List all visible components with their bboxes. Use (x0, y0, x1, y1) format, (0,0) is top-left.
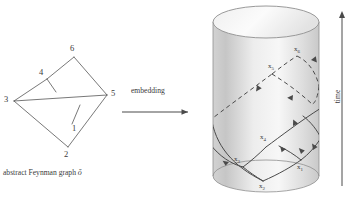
edge-4-6 (47, 57, 74, 79)
time-axis-label: time (333, 83, 342, 111)
graph-caption-symbol: ǒ (78, 168, 82, 177)
point-label-x1: x1 (297, 164, 303, 172)
abstract-feynman-graph-panel: 6 4 5 3 1 2 (0, 0, 130, 175)
edge-3-5 (14, 95, 107, 101)
vertex-label-3: 3 (4, 95, 8, 104)
graph-caption: abstract Feynman graph ǒ (3, 168, 82, 177)
graph-caption-text: abstract Feynman graph (3, 168, 78, 177)
edge-4-internal (47, 79, 56, 92)
vertex-label-2: 2 (64, 150, 68, 159)
edge-3-4 (14, 79, 47, 101)
point-label-x3: x3 (234, 156, 240, 164)
vertex-label-4: 4 (39, 68, 43, 77)
cylinder-top-ellipse (213, 6, 319, 38)
point-label-x2: x2 (259, 183, 265, 191)
point-label-x6: x6 (294, 46, 300, 54)
edge-3-2 (14, 101, 68, 147)
point-label-x5: x5 (268, 63, 274, 71)
vertex-label-5: 5 (111, 89, 115, 98)
edge-2-5 (68, 95, 107, 147)
edge-1-internal (72, 105, 80, 124)
vertex-label-6: 6 (70, 44, 74, 53)
point-label-x4: x4 (260, 134, 266, 142)
embedding-label: embedding (131, 86, 165, 95)
edge-6-5 (74, 57, 107, 95)
cylinder-body (213, 22, 319, 192)
vertex-label-1: 1 (72, 124, 76, 133)
figure-embedding-feynman-graph: 6 4 5 3 1 2 abstract Feynman graph ǒ emb… (0, 0, 354, 197)
spacetime-cylinder-panel: x1 x2 x3 x4 x5 x6 (205, 4, 327, 194)
cylinder-drawing (205, 4, 327, 194)
time-axis: time (330, 8, 354, 190)
embedding-arrow-panel: embedding (120, 86, 198, 122)
